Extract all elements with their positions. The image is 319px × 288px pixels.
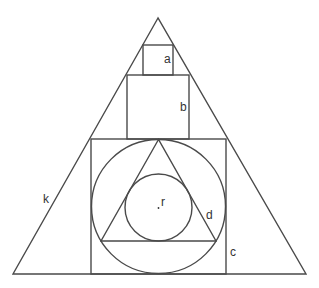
label-k: k — [43, 192, 50, 206]
label-r: r — [161, 195, 165, 209]
label-a: a — [164, 52, 171, 66]
label-c: c — [230, 245, 236, 259]
center-point — [158, 207, 160, 209]
label-b: b — [180, 100, 187, 114]
outer-circle — [92, 140, 226, 274]
label-d: d — [206, 208, 213, 222]
inner-triangle — [101, 140, 216, 242]
geometry-diagram: a b c d k r — [0, 0, 319, 288]
outer-triangle — [13, 18, 306, 274]
